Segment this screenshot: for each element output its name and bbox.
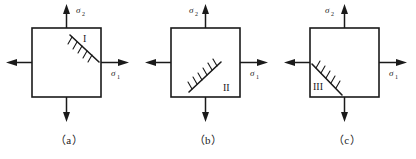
sigma1-label-sub-a: 1	[117, 74, 120, 80]
stress-element-panel-b: σ 2 σ 1 II （b）	[139, 0, 277, 159]
sigma2-arrow-head-top	[202, 4, 209, 14]
sigma1-arrow-head-right	[396, 59, 407, 66]
sigma2-arrow-head-bottom	[202, 112, 209, 122]
sigma1-label-sub-c: 1	[395, 74, 398, 80]
crack-label-III: III	[313, 81, 323, 92]
sigma2-label-b: σ	[189, 5, 194, 15]
sigma1-arrow-head-left	[145, 59, 156, 66]
sigma2-label-c: σ	[325, 5, 330, 15]
sigma2-arrow-head-bottom	[63, 112, 70, 122]
stress-element-square	[32, 28, 101, 97]
stress-element-panel-c: σ 2 σ 1 III （c）	[278, 0, 416, 159]
figure-root: σ 2 σ 1 I （a）	[0, 0, 416, 159]
sigma2-label-sub-b: 2	[195, 11, 198, 17]
sigma2-arrow-head-top	[63, 4, 70, 14]
sigma1-arrow-head-right	[257, 59, 268, 66]
sigma2-arrow-head-top	[341, 4, 348, 14]
crack-label-I: I	[83, 33, 86, 44]
sigma1-arrow-head-left	[6, 59, 17, 66]
stress-element-panel-a: σ 2 σ 1 I （a）	[0, 0, 138, 159]
sigma2-label-sub-c: 2	[331, 11, 334, 17]
sigma1-label-a: σ	[111, 68, 116, 78]
crack-label-II: II	[223, 82, 230, 93]
panel-caption-c: （c）	[278, 131, 416, 147]
sigma2-label-a: σ	[76, 5, 81, 15]
sigma1-label-c: σ	[389, 68, 394, 78]
sigma1-arrow-head-left	[284, 59, 295, 66]
panel-caption-b: （b）	[139, 131, 277, 147]
sigma2-arrow-head-bottom	[341, 112, 348, 122]
sigma1-label-b: σ	[250, 68, 255, 78]
sigma1-arrow-head-right	[118, 59, 129, 66]
sigma2-label-sub-a: 2	[82, 11, 85, 17]
panel-caption-a: （a）	[0, 131, 138, 147]
sigma1-label-sub-b: 1	[256, 74, 259, 80]
